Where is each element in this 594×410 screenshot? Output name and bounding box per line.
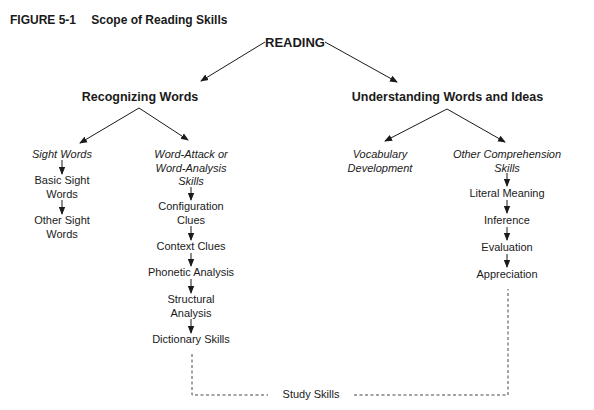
figure-label: FIGURE 5-1 — [10, 13, 76, 27]
arrow-recognizing-to-sight — [80, 108, 139, 143]
arrow-recognizing-to-wordattack — [139, 108, 188, 140]
node-phonetic-analysis: Phonetic Analysis — [131, 266, 251, 280]
node-configuration-clues: Configuration Clues — [136, 200, 246, 227]
node-context-clues: Context Clues — [136, 240, 246, 254]
node-study-skills: Study Skills — [268, 388, 354, 402]
diagram-connectors — [0, 0, 594, 410]
node-understanding-words-ideas: Understanding Words and Ideas — [340, 90, 555, 104]
arrow-understanding-to-comprehension — [447, 109, 505, 142]
study-skills-left-connector — [192, 354, 268, 395]
node-evaluation: Evaluation — [452, 241, 562, 255]
arrow-understanding-to-vocab — [385, 109, 447, 141]
node-other-sight-words: Other Sight Words — [12, 214, 112, 241]
figure-title: Scope of Reading Skills — [91, 13, 227, 27]
node-literal-meaning: Literal Meaning — [452, 187, 562, 201]
node-other-comprehension-skills: Other Comprehension Skills — [442, 148, 572, 175]
node-dictionary-skills: Dictionary Skills — [131, 333, 251, 347]
node-structural-analysis: Structural Analysis — [136, 293, 246, 320]
study-skills-right-connector — [354, 289, 508, 395]
node-reading: READING — [250, 35, 340, 50]
node-inference: Inference — [452, 214, 562, 228]
node-vocabulary-development: Vocabulary Development — [320, 148, 440, 175]
node-basic-sight-words: Basic Sight Words — [12, 174, 112, 201]
node-sight-words: Sight Words — [12, 148, 112, 162]
figure-caption: FIGURE 5-1 Scope of Reading Skills — [10, 13, 227, 27]
node-recognizing-words: Recognizing Words — [60, 90, 220, 104]
node-word-attack: Word-Attack or Word-Analysis Skills — [136, 148, 246, 189]
node-appreciation: Appreciation — [452, 268, 562, 282]
